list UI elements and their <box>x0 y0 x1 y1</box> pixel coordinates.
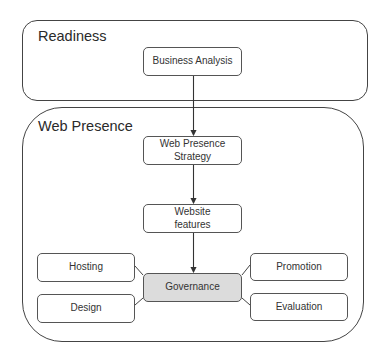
node-governance: Governance <box>143 273 242 302</box>
node-evaluation: Evaluation <box>250 293 348 321</box>
edge-governance-hosting <box>135 266 143 275</box>
node-hosting: Hosting <box>37 253 135 282</box>
node-design: Design <box>37 294 135 323</box>
edge-governance-design <box>135 298 143 305</box>
node-promotion: Promotion <box>250 253 348 281</box>
edge-governance-promotion <box>242 265 250 275</box>
edge-governance-evaluation <box>242 298 250 305</box>
node-web-presence-strategy: Web Presence Strategy <box>143 136 242 165</box>
node-business-analysis: Business Analysis <box>143 47 242 76</box>
node-website-features: Website features <box>143 204 242 233</box>
